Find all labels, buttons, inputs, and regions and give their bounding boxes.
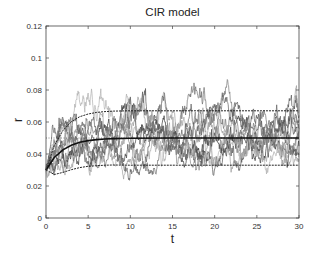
y-tick-label: 0.12 <box>26 22 42 31</box>
y-tick-label: 0.04 <box>26 150 42 159</box>
x-tick-label: 25 <box>252 222 261 231</box>
chart-title: CIR model <box>46 6 299 18</box>
cir-chart: 051015202530 00.020.040.060.080.10.12 <box>0 0 318 254</box>
x-tick-label: 20 <box>210 222 219 231</box>
x-axis-label: t <box>46 232 299 246</box>
y-axis-label: r <box>11 118 25 122</box>
x-tick-label: 15 <box>168 222 177 231</box>
x-tick-label: 30 <box>295 222 304 231</box>
x-tick-label: 0 <box>44 222 49 231</box>
x-tick-label: 5 <box>86 222 91 231</box>
lower-confidence-band-line <box>46 165 299 175</box>
x-tick-label: 10 <box>126 222 135 231</box>
y-tick-label: 0.08 <box>26 86 42 95</box>
y-tick-label: 0 <box>38 214 43 223</box>
y-tick-label: 0.02 <box>26 182 42 191</box>
y-tick-label: 0.06 <box>26 118 42 127</box>
y-tick-label: 0.1 <box>31 54 43 63</box>
